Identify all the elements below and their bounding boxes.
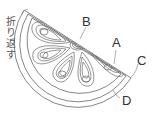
segment-3 [53, 52, 74, 82]
orange-slice-illustration [0, 0, 158, 116]
segment-4 [78, 52, 94, 86]
label-c: C [137, 54, 146, 67]
label-d: D [122, 94, 131, 107]
label-b: B [82, 15, 91, 28]
rind-outline [14, 10, 131, 107]
fold-back-text: 折り返す [6, 16, 18, 60]
leader-a [114, 50, 116, 64]
label-a: A [112, 36, 121, 49]
center-coil [70, 40, 86, 50]
segment-2 [33, 46, 70, 64]
segment-1 [32, 22, 70, 44]
quilling-diagram: B A C D 折り返す [0, 0, 158, 116]
